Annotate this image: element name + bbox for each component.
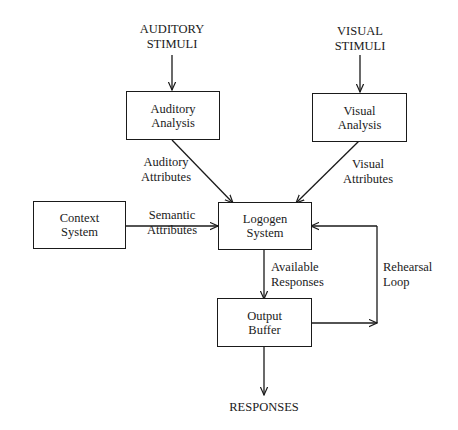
input-visual-line-2: STIMULI xyxy=(320,39,400,54)
node-logogen-system: Logogen System xyxy=(218,202,312,250)
node-output-buffer-line-2: Buffer xyxy=(248,323,280,337)
node-context-system: Context System xyxy=(33,201,126,249)
label-available-responses: Available Responses xyxy=(271,260,324,289)
node-context-system-line-2: System xyxy=(61,225,98,239)
node-context-system-line-1: Context xyxy=(60,211,100,225)
label-auditory-attributes-line-1: Auditory xyxy=(138,155,194,170)
label-available-responses-line-2: Responses xyxy=(271,275,324,290)
node-logogen-system-line-2: System xyxy=(247,226,284,240)
node-auditory-analysis-line-2: Analysis xyxy=(151,116,195,130)
label-auditory-attributes-line-2: Attributes xyxy=(138,170,194,185)
label-available-responses-line-1: Available xyxy=(271,260,324,275)
node-auditory-analysis-line-1: Auditory xyxy=(150,102,195,116)
label-visual-attributes-line-2: Attributes xyxy=(340,172,396,187)
label-rehearsal-loop-line-1: Rehearsal xyxy=(383,260,432,275)
label-semantic-attributes-line-1: Semantic xyxy=(144,208,200,223)
output-responses-text: RESPONSES xyxy=(214,400,314,415)
node-visual-analysis-line-1: Visual xyxy=(344,104,376,118)
node-visual-analysis-line-2: Analysis xyxy=(338,118,382,132)
input-auditory-stimuli: AUDITORY STIMULI xyxy=(130,22,214,51)
output-responses: RESPONSES xyxy=(214,400,314,415)
node-logogen-system-line-1: Logogen xyxy=(243,212,287,226)
input-visual-stimuli: VISUAL STIMULI xyxy=(320,24,400,53)
label-semantic-attributes: Semantic Attributes xyxy=(144,208,200,237)
label-rehearsal-loop-line-2: Loop xyxy=(383,275,432,290)
input-auditory-line-1: AUDITORY xyxy=(130,22,214,37)
node-output-buffer: Output Buffer xyxy=(217,298,312,347)
input-visual-line-1: VISUAL xyxy=(320,24,400,39)
label-auditory-attributes: Auditory Attributes xyxy=(138,155,194,184)
node-auditory-analysis: Auditory Analysis xyxy=(126,91,220,140)
label-semantic-attributes-line-2: Attributes xyxy=(144,223,200,238)
node-visual-analysis: Visual Analysis xyxy=(312,93,407,142)
input-auditory-line-2: STIMULI xyxy=(130,37,214,52)
label-visual-attributes: Visual Attributes xyxy=(340,157,396,186)
label-rehearsal-loop: Rehearsal Loop xyxy=(383,260,432,289)
node-output-buffer-line-1: Output xyxy=(247,309,282,323)
label-visual-attributes-line-1: Visual xyxy=(340,157,396,172)
